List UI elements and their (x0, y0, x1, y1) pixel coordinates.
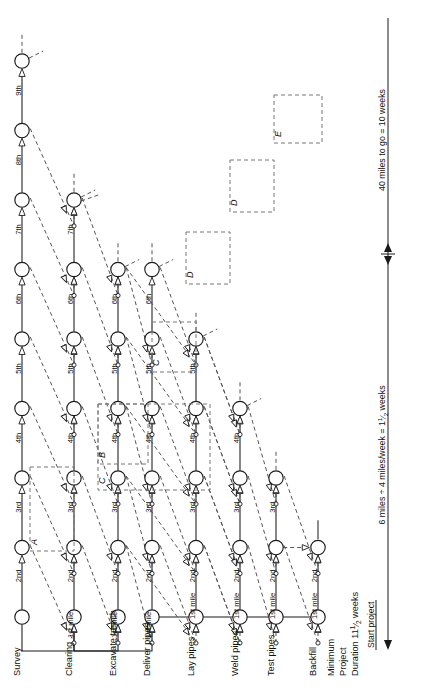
dependency-arrowhead-icon (149, 486, 155, 493)
dependency-arrowhead-icon (71, 555, 77, 562)
group-box-label: A (29, 539, 39, 546)
event-node[interactable] (111, 262, 125, 276)
arrowhead-glyph (307, 623, 314, 631)
milestone-label-excavate-trench-4: 5th (110, 363, 119, 374)
milestone-label-survey-7: 8th (14, 155, 23, 166)
first-mile-label-lay-pipes: 1st mile (188, 593, 197, 619)
arrowhead-glyph (183, 558, 191, 567)
event-node[interactable] (111, 401, 125, 415)
dependency-arrow (30, 268, 74, 366)
event-node[interactable] (15, 193, 29, 207)
activity-arrowhead-icon (19, 555, 25, 563)
milestone-label-lay-pipes-1: 2nd (188, 570, 197, 583)
activity-label-test-pipes: Test pipes (266, 634, 276, 676)
dependency-arrowhead-icon (273, 625, 279, 632)
event-node[interactable] (145, 471, 159, 485)
activity-arrowhead-icon (19, 416, 25, 424)
milestone-label-survey-6: 7th (14, 224, 23, 235)
event-node[interactable] (233, 401, 247, 415)
dependency-arrow (30, 198, 74, 296)
dependency-arrowhead-icon (237, 625, 243, 632)
dependency-arrowhead-icon (107, 484, 114, 492)
event-node[interactable] (67, 332, 81, 346)
event-node[interactable] (15, 610, 29, 624)
dependency-arrowhead-icon (107, 345, 114, 353)
dependency-arrowhead-icon (183, 350, 191, 359)
activity-label-lay-pipes: Lay pipes (186, 636, 196, 676)
activity-arrowhead-icon (19, 208, 25, 216)
arrowhead-glyph (107, 553, 114, 561)
event-node[interactable] (15, 471, 29, 485)
event-node[interactable] (189, 401, 203, 415)
event-node[interactable] (189, 471, 203, 485)
event-node[interactable] (269, 540, 283, 554)
dependency-arrowhead-icon (71, 208, 77, 215)
dependency-arrow (30, 476, 74, 574)
event-node[interactable] (269, 471, 283, 485)
event-node[interactable] (67, 262, 81, 276)
milestone-label-lay-pipes-3: 4th (188, 433, 197, 444)
dependency-arrowhead-icon (149, 555, 155, 562)
dependency-arrowhead-icon (71, 347, 77, 354)
dependency-arrow (30, 407, 74, 505)
scale-arrow-icon (384, 640, 392, 650)
dependency-arrowhead-icon (183, 628, 191, 637)
dependency-arrowhead-icon (107, 553, 114, 561)
event-node[interactable] (145, 262, 159, 276)
event-node[interactable] (145, 401, 159, 415)
dependency-arrowhead-icon (193, 625, 199, 632)
activity-arrowhead-icon (19, 277, 25, 285)
event-node[interactable] (233, 540, 247, 554)
arrowhead-glyph (107, 484, 114, 492)
dependency-arrowhead-icon (149, 416, 155, 423)
milestone-label-clearing-6: 7th (66, 224, 75, 235)
network-diagram-canvas: 2nd3rd4th5th6th7th8th9th2nd3rd4th5th6th7… (0, 0, 426, 690)
milestone-label-excavate-trench-3: 4th (110, 433, 119, 444)
activity-arrowhead-icon (19, 138, 25, 146)
event-node[interactable] (111, 540, 125, 554)
future-work-dash (247, 399, 261, 406)
dependency-arrowhead-icon (183, 419, 191, 428)
event-node[interactable] (15, 262, 29, 276)
arrowhead-glyph (183, 628, 191, 637)
group-box-label: C (151, 359, 161, 366)
event-node[interactable] (15, 540, 29, 554)
dependency-arrowhead-icon (315, 625, 321, 632)
event-node[interactable] (233, 471, 247, 485)
activity-label-deliver-pipes: Deliver pipes (142, 622, 152, 676)
milestone-label-clearing-1: 2nd (66, 570, 75, 583)
first-mile-label-test-pipes: 1st mile (268, 593, 277, 619)
event-node[interactable] (15, 332, 29, 346)
milestone-label-excavate-trench-2: 3rd (110, 502, 119, 513)
future-work-dash (159, 260, 173, 267)
scale-bottom-prefix: 6 miles ÷ 4 miles/week = 1 (377, 421, 387, 524)
milestone-label-layer: 2nd3rd4th5th6th7th8th9th2nd3rd4th5th6th7… (14, 85, 319, 638)
first-mile-label-weld-pipes: 1st mile (232, 593, 241, 619)
group-box-d2: D (229, 160, 274, 212)
milestone-label-deliver-pipes-1: 2nd (144, 570, 153, 583)
dependency-arrowhead-icon (237, 486, 243, 493)
event-node[interactable] (111, 471, 125, 485)
activity-arrowhead-icon (19, 69, 25, 77)
milestone-label-survey-2: 3rd (14, 502, 23, 513)
event-node[interactable] (15, 123, 29, 137)
dependency-arrowhead-icon (115, 555, 121, 562)
milestone-label-test-pipes-2: 3rd (268, 502, 277, 513)
group-box-e: E (273, 95, 322, 143)
event-node[interactable] (111, 332, 125, 346)
event-node[interactable] (189, 540, 203, 554)
future-work-dash (203, 329, 217, 336)
event-node[interactable] (67, 193, 81, 207)
summary-line-2: Project (338, 647, 348, 676)
activity-label-excavate-trench: Excavate trench (108, 610, 118, 676)
arrowhead-glyph (183, 419, 191, 428)
event-node[interactable] (311, 540, 325, 554)
scale-bottom-suffix: weeks (378, 385, 388, 413)
arrowhead-glyph (183, 350, 191, 359)
event-node[interactable] (67, 401, 81, 415)
network-graph: 2nd3rd4th5th6th7th8th9th2nd3rd4th5th6th7… (12, 18, 395, 676)
event-node[interactable] (15, 54, 29, 68)
event-node[interactable] (145, 540, 159, 554)
scale-top-label: 40 miles to go = 10 weeks (377, 88, 387, 191)
event-node[interactable] (15, 401, 29, 415)
